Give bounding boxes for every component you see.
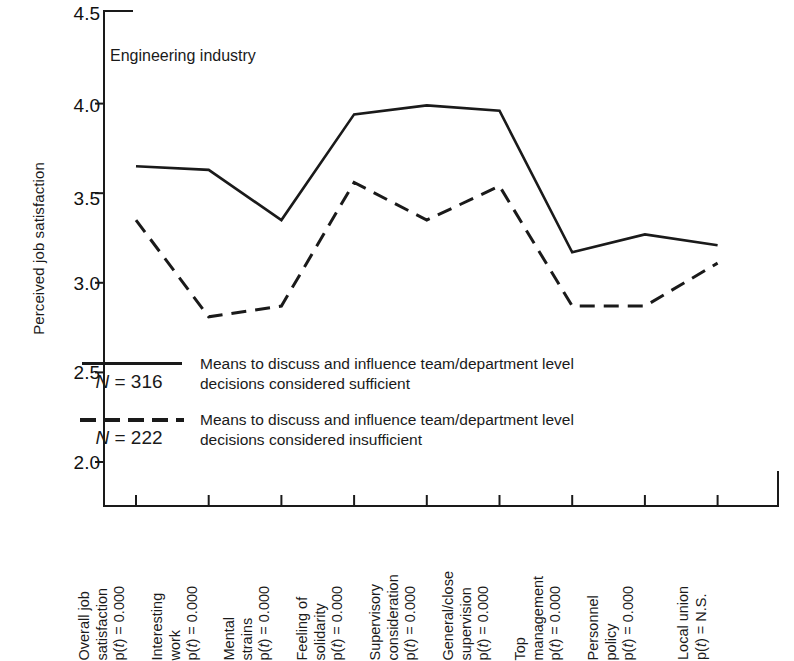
x-category-label-text: Topmanagementp(t) = 0.000 xyxy=(512,514,565,660)
legend-row-insufficient: N = 222 Means to discuss and influence t… xyxy=(68,412,708,468)
x-label-pvalue: p(t) = 0.000 xyxy=(619,514,637,660)
y-tick-4.0: 4.0 xyxy=(44,96,100,115)
x-label-line1: Personnel xyxy=(584,514,602,660)
legend-line2: decisions considered sufficient xyxy=(200,375,410,392)
x-label-line1: General/close xyxy=(439,514,457,660)
x-label-line1: Feeling of xyxy=(294,514,312,660)
x-label-line1: Mental xyxy=(221,514,239,660)
x-label-pvalue: p(t) = 0.000 xyxy=(183,514,201,660)
legend-line1: Means to discuss and influence team/depa… xyxy=(200,355,574,372)
legend-n-222: N = 222 xyxy=(68,426,190,449)
legend-line1: Means to discuss and influence team/depa… xyxy=(200,411,574,428)
x-label-line1: Interesting xyxy=(148,514,166,660)
dashed-line-icon xyxy=(80,418,184,422)
x-label-line1: Supervisory xyxy=(366,514,384,660)
legend-row-sufficient: N = 316 Means to discuss and influence t… xyxy=(68,356,708,412)
x-label-line1: Top xyxy=(512,514,530,660)
x-category-label-text: Feeling ofsolidarityp(t) = 0.000 xyxy=(294,514,347,660)
legend-key-insufficient: N = 222 xyxy=(68,412,190,449)
n-symbol-italic: N xyxy=(95,371,109,392)
x-category-label-9: Local unionp(t) = N.S. xyxy=(710,514,764,660)
x-label-line2: solidarity xyxy=(311,514,329,660)
x-category-label-text: General/closesupervisionp(t) = 0.000 xyxy=(439,514,492,660)
x-label-pvalue: p(t) = 0.000 xyxy=(401,514,419,660)
x-label-line1: Local union xyxy=(675,514,693,660)
x-category-label-text: Supervisoryconsiderationp(t) = 0.000 xyxy=(366,514,419,660)
x-label-line2: satisfaction xyxy=(93,514,111,660)
x-label-line2: management xyxy=(529,514,547,660)
x-label-line2: strains xyxy=(238,514,256,660)
x-label-line2: supervision xyxy=(457,514,475,660)
figure: Perceived job satisfaction 4.5 4.0 3.5 3… xyxy=(0,0,794,661)
legend-line2: decisions considered insufficient xyxy=(200,431,422,448)
x-category-label-text: Personnelpolicyp(t) = 0.000 xyxy=(584,514,637,660)
x-category-label-text: Overall jobsatisfactionp(t) = 0.000 xyxy=(76,514,129,660)
x-label-pvalue: p(t) = 0.000 xyxy=(329,514,347,660)
axis-right-cap xyxy=(777,471,779,507)
x-category-label-text: Mentalstrainsp(t) = 0.000 xyxy=(221,514,274,660)
legend-key-sufficient: N = 316 xyxy=(68,356,190,393)
x-category-label-text: Interestingworkp(t) = 0.000 xyxy=(148,514,201,660)
n-value: = 316 xyxy=(109,371,162,392)
x-label-pvalue: p(t) = 0.000 xyxy=(111,514,129,660)
legend: N = 316 Means to discuss and influence t… xyxy=(68,356,708,468)
x-label-line2: work xyxy=(166,514,184,660)
legend-text-sufficient: Means to discuss and influence team/depa… xyxy=(200,354,574,394)
x-category-label-text: Local unionp(t) = N.S. xyxy=(675,514,710,660)
n-symbol-italic: N xyxy=(95,427,109,448)
x-label-pvalue: p(t) = 0.000 xyxy=(256,514,274,660)
plot-title: Engineering industry xyxy=(110,47,256,65)
solid-line-icon xyxy=(82,362,182,365)
x-label-pvalue: p(t) = 0.000 xyxy=(547,514,565,660)
x-label-line2: policy xyxy=(602,514,620,660)
x-label-line1: Overall job xyxy=(76,514,94,660)
n-value: = 222 xyxy=(109,427,162,448)
y-tick-3.0: 3.0 xyxy=(44,274,100,293)
legend-n-316: N = 316 xyxy=(68,370,190,393)
x-label-pvalue: p(t) = N.S. xyxy=(692,514,710,660)
axis-top-cap xyxy=(103,10,133,12)
legend-swatch-dashed xyxy=(68,412,190,426)
y-tick-3.5: 3.5 xyxy=(44,189,100,208)
x-label-line2: consideration xyxy=(384,514,402,660)
x-axis-category-labels: Overall jobsatisfactionp(t) = 0.000Inter… xyxy=(0,512,794,661)
y-tick-4.5: 4.5 xyxy=(44,4,100,23)
x-label-pvalue: p(t) = 0.000 xyxy=(474,514,492,660)
legend-swatch-solid xyxy=(68,356,190,370)
legend-text-insufficient: Means to discuss and influence team/depa… xyxy=(200,410,574,450)
